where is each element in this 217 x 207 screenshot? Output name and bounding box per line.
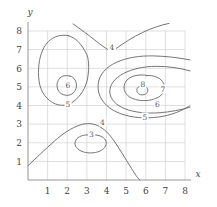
contour-level-4-upper-saddle-left: [73, 24, 107, 49]
contour-level-labels: 6 5 4 8 7 6 5 4 3: [65, 42, 167, 139]
contour-label-8-right-peak: 8: [141, 80, 146, 89]
y-axis-tick-labels: 1 2 3 4 5 6 7 8: [16, 26, 22, 166]
contour-level-6-right-peak: [110, 66, 190, 113]
y-tick-label-5: 5: [16, 82, 22, 92]
contour-label-4-upper-saddle: 4: [110, 43, 115, 52]
x-tick-label-1: 1: [45, 186, 51, 196]
x-axis-tick-labels: 1 2 3 4 5 6 7 8: [45, 186, 188, 196]
y-tick-label-1: 1: [16, 157, 22, 167]
x-tick-label-8: 8: [182, 186, 188, 196]
y-tick-label-6: 6: [16, 64, 22, 74]
contour-plot-svg: 6 5 4 8 7 6 5 4 3 1 2 3 4 5 6 7: [0, 0, 217, 207]
x-tick-label-2: 2: [64, 186, 70, 196]
contour-label-5-left-hill: 5: [66, 100, 71, 109]
contour-plot-figure: 6 5 4 8 7 6 5 4 3 1 2 3 4 5 6 7: [0, 0, 217, 207]
x-tick-label-3: 3: [84, 186, 90, 196]
axis-titles: x y: [26, 7, 200, 179]
contour-label-4-lower-arch: 4: [100, 118, 105, 127]
x-axis-label: x: [195, 169, 200, 179]
contour-label-3-lower-basin: 3: [89, 130, 94, 139]
y-tick-label-2: 2: [16, 138, 22, 148]
contour-label-6-left-hill: 6: [66, 81, 71, 90]
x-tick-label-5: 5: [123, 186, 129, 196]
contour-label-6-right-peak: 6: [155, 100, 160, 109]
y-axis-label: y: [26, 7, 33, 17]
y-tick-label-8: 8: [16, 26, 22, 36]
y-tick-label-7: 7: [16, 45, 22, 55]
y-tick-label-4: 4: [16, 101, 22, 111]
contour-level-4-upper-saddle-right: [116, 23, 169, 48]
x-tick-label-7: 7: [163, 186, 169, 196]
contour-label-7-right-peak: 7: [161, 85, 166, 94]
y-tick-label-3: 3: [16, 119, 22, 129]
x-tick-label-6: 6: [143, 186, 149, 196]
contour-label-5-right-peak: 5: [143, 113, 148, 122]
x-tick-label-4: 4: [104, 186, 110, 196]
